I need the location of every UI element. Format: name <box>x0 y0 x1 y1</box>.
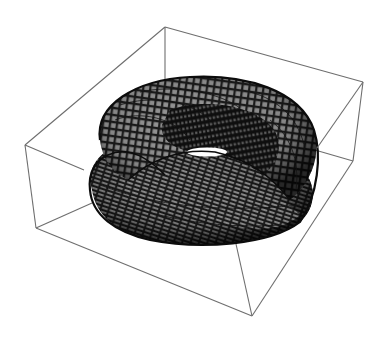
surface-plot-figure <box>0 0 385 337</box>
box-edge-bottom-left-back <box>36 203 92 228</box>
box-edge-bottom-right-back <box>315 150 353 161</box>
box-edge-left-vertical <box>25 145 36 228</box>
box-edge-front-vertical <box>236 244 252 316</box>
box-edge-top-back-right <box>165 27 363 82</box>
box-edge-top-left-front <box>25 145 84 170</box>
tube-surface <box>90 77 318 245</box>
